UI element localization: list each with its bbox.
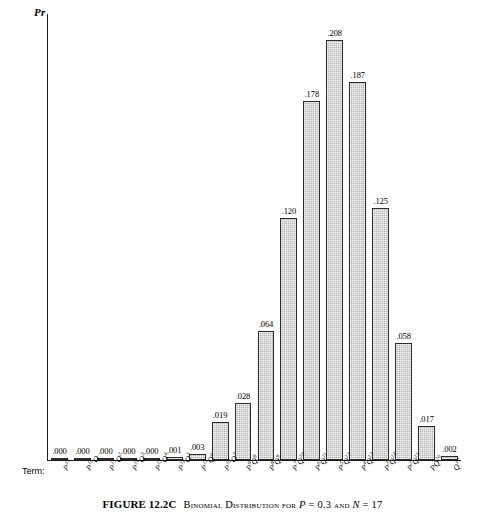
figure-binomial-distribution: Pr .000.000.000.000.000.001.003.019.028.…: [0, 0, 485, 525]
bar-group: .000: [71, 14, 94, 460]
bar: [349, 82, 366, 460]
bar-group: .000: [140, 14, 163, 460]
bar-group: .208: [323, 14, 346, 460]
bar-group: .001: [163, 14, 186, 460]
y-axis-label: Pr: [34, 6, 45, 18]
bar-value-label: .002: [434, 444, 465, 454]
bar: [235, 403, 252, 460]
bar-group: .058: [392, 14, 415, 460]
bar: [326, 40, 343, 460]
term-axis-label: Term:: [22, 466, 45, 476]
bar-group: .187: [346, 14, 369, 460]
bar-group: .000: [117, 14, 140, 460]
bar-group: .028: [232, 14, 255, 460]
bar: [395, 343, 412, 460]
bar: [372, 208, 389, 460]
bar-group: .064: [255, 14, 278, 460]
caption-figure-number: FIGURE 12.2C: [103, 498, 177, 510]
bar-group: .120: [277, 14, 300, 460]
bar-group: .017: [415, 14, 438, 460]
bar: [280, 218, 297, 460]
caption-text: Binomial Distribution for P = 0.3 and N …: [183, 499, 382, 510]
bar-group: .178: [300, 14, 323, 460]
bar-group: .002: [438, 14, 461, 460]
plot-area: .000.000.000.000.000.001.003.019.028.064…: [48, 14, 461, 460]
bar: [258, 331, 275, 460]
figure-caption: FIGURE 12.2CBinomial Distribution for P …: [0, 498, 485, 510]
bar-group: .000: [94, 14, 117, 460]
term-label-row: P17P16QP15Q2P14Q3P13Q4P12Q5P11Q6P10Q7P9Q…: [48, 462, 461, 496]
bar-group: .000: [48, 14, 71, 460]
bar-group: .003: [186, 14, 209, 460]
bar-group: .125: [369, 14, 392, 460]
bar: [303, 101, 320, 460]
